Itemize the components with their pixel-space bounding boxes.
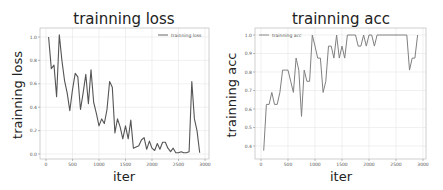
acc-line	[264, 35, 418, 151]
x-tick-label: 1500	[120, 162, 132, 167]
y-tick-label: 0.6	[30, 81, 37, 86]
x-tick-label: 1500	[336, 162, 348, 167]
y-tick-label: 0.8	[245, 70, 252, 75]
y-axis-label: trainning acc	[224, 53, 239, 138]
x-tick-label: 0	[260, 162, 263, 167]
legend-label: trainning loss	[171, 33, 202, 38]
y-tick-label: 0.9	[245, 51, 252, 56]
figure: trainning loss 050010001500200025003000 …	[0, 0, 443, 190]
x-ticks: 050010001500200025003000	[260, 159, 429, 167]
x-tick-label: 2000	[146, 162, 158, 167]
training-acc-chart: trainning acc 050010001500200025003000 0…	[224, 10, 429, 184]
y-tick-label: 0.4	[30, 105, 37, 110]
x-axis-label: iter	[113, 169, 136, 184]
x-axis-label: iter	[330, 169, 353, 184]
y-ticks: 0.40.50.60.70.80.91.0	[245, 33, 255, 149]
chart-title: trainning loss	[73, 10, 175, 28]
gridlines	[255, 28, 426, 159]
gridlines	[40, 28, 209, 159]
x-ticks: 050010001500200025003000	[45, 159, 211, 167]
y-ticks: 0.00.20.40.60.81.0	[30, 35, 40, 157]
y-tick-label: 0.2	[30, 128, 37, 133]
x-tick-label: 1000	[93, 162, 105, 167]
training-loss-chart: trainning loss 050010001500200025003000 …	[10, 10, 211, 184]
y-tick-label: 0.4	[245, 144, 252, 149]
x-tick-label: 3000	[199, 162, 211, 167]
x-tick-label: 500	[284, 162, 293, 167]
y-tick-label: 0.5	[245, 125, 252, 130]
loss-line	[49, 35, 200, 153]
y-tick-label: 1.0	[30, 35, 37, 40]
plot-frame	[40, 28, 209, 159]
y-tick-label: 1.0	[245, 33, 252, 38]
x-tick-label: 3000	[417, 162, 429, 167]
y-axis-label: trainning loss	[10, 51, 25, 139]
x-tick-label: 2000	[363, 162, 375, 167]
x-tick-label: 500	[68, 162, 77, 167]
y-tick-label: 0.6	[245, 107, 252, 112]
legend-label: trainning acc	[272, 33, 302, 38]
y-tick-label: 0.0	[30, 152, 37, 157]
x-tick-label: 0	[45, 162, 48, 167]
y-tick-label: 0.7	[245, 88, 252, 93]
x-tick-label: 2500	[390, 162, 402, 167]
x-tick-label: 2500	[173, 162, 185, 167]
x-tick-label: 1000	[309, 162, 321, 167]
chart-title: trainning acc	[292, 10, 390, 28]
plot-frame	[255, 28, 426, 159]
y-tick-label: 0.8	[30, 58, 37, 63]
legend: trainning acc	[259, 33, 302, 38]
